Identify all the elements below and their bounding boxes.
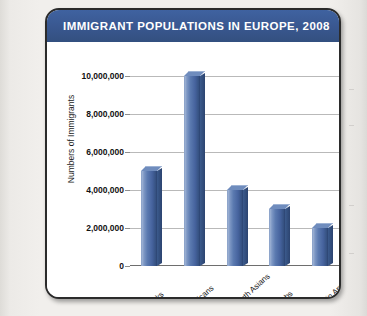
bar <box>184 76 200 266</box>
bar-chart-plot-area: 02,000,0004,000,0006,000,0008,000,00010,… <box>130 76 341 266</box>
y-axis-tick-label: 8,000,000 <box>86 109 124 119</box>
bar-front-face <box>312 228 328 266</box>
y-axis-title: Numbers of Immigrants <box>66 69 76 209</box>
y-axis-tick-mark <box>125 190 130 191</box>
bar <box>227 190 243 266</box>
y-axis-tick-mark <box>125 266 130 267</box>
bar-front-face <box>141 171 157 266</box>
y-axis-tick-label: 4,000,000 <box>86 185 124 195</box>
chart-title: IMMIGRANT POPULATIONS IN EUROPE, 2008 <box>63 20 330 32</box>
y-axis-tick-mark <box>125 76 130 77</box>
gridline <box>130 114 341 115</box>
scan-artifacts <box>349 85 361 275</box>
bar-side-face <box>328 225 333 266</box>
y-axis-tick-label: 6,000,000 <box>86 147 124 157</box>
bar-side-face <box>285 206 290 266</box>
x-axis-tick-label: South Asians <box>231 272 272 299</box>
bar-front-face <box>227 190 243 266</box>
bar-front-face <box>184 76 200 266</box>
chart-title-bar: IMMIGRANT POPULATIONS IN EUROPE, 2008 <box>47 10 339 42</box>
y-axis-tick-mark <box>125 114 130 115</box>
y-axis-tick-mark <box>125 228 130 229</box>
bar <box>312 228 328 266</box>
chart-card: IMMIGRANT POPULATIONS IN EUROPE, 2008 Nu… <box>45 8 341 299</box>
x-axis-tick-label: Turks <box>145 290 166 299</box>
x-axis-tick-label: Africans <box>188 284 216 299</box>
bar <box>269 209 285 266</box>
x-axis-tick-label: Latin Americans <box>316 265 341 299</box>
bar <box>141 171 157 266</box>
bar-side-face <box>200 73 205 266</box>
y-axis-tick-label: 2,000,000 <box>86 223 124 233</box>
bar-side-face <box>157 168 162 266</box>
x-axis-tick-label: Arabs <box>273 289 295 299</box>
y-axis-tick-mark <box>125 152 130 153</box>
gridline <box>130 152 341 153</box>
gridline <box>130 76 341 77</box>
chart-plot-container: Numbers of Immigrants 02,000,0004,000,00… <box>47 42 339 297</box>
bar-front-face <box>269 209 285 266</box>
y-axis-tick-label: 0 <box>119 261 124 271</box>
y-axis-tick-label: 10,000,000 <box>81 71 124 81</box>
bar-side-face <box>243 187 248 266</box>
